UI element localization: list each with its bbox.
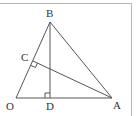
right-angle-marker-D xyxy=(45,93,50,98)
label-C: C xyxy=(21,51,28,63)
segment-AB xyxy=(50,22,112,98)
segment-AC xyxy=(33,61,112,98)
label-A: A xyxy=(113,99,121,111)
label-B: B xyxy=(46,7,53,19)
label-D: D xyxy=(46,100,54,112)
label-O: O xyxy=(6,100,14,112)
right-angle-marker-C xyxy=(31,63,38,68)
triangle-diagram: B C O D A xyxy=(0,0,138,116)
